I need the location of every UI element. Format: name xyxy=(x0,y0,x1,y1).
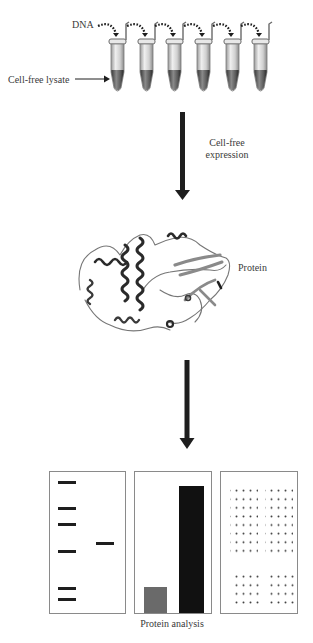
sample-band xyxy=(96,542,114,545)
expression-label-line2: expression xyxy=(192,149,262,161)
cell-free-expression-label: Cell-free expression xyxy=(192,137,262,161)
bar-high xyxy=(179,486,204,613)
microarray-dots xyxy=(221,472,299,615)
ladder-band xyxy=(58,587,76,590)
ladder-band xyxy=(58,550,76,553)
protein-label: Protein xyxy=(238,262,267,273)
bar-low xyxy=(144,587,167,613)
ladder-band xyxy=(58,523,76,526)
gel-electrophoresis-panel xyxy=(49,471,126,614)
bar-chart-panel xyxy=(134,471,212,614)
ladder-band xyxy=(58,507,76,510)
expression-label-line1: Cell-free xyxy=(192,137,262,149)
microarray-panel xyxy=(220,471,298,614)
ladder-band xyxy=(58,598,76,601)
ladder-band xyxy=(58,481,76,484)
tube-row-graphic xyxy=(0,0,313,110)
protein-analysis-caption: Protein analysis xyxy=(122,618,222,629)
